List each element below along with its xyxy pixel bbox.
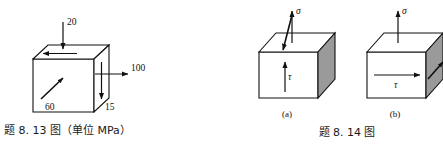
stress-label-60: 60 <box>45 102 55 112</box>
figure-8-13: 20 15 100 60 题 8. 13 图（单位 MPa） <box>4 17 146 137</box>
tau-label-a: τ <box>288 72 292 82</box>
cube-a <box>259 33 335 98</box>
figure-8-14: σ τ (a) σ <box>259 6 443 139</box>
sigma-label-b: σ <box>402 6 407 16</box>
stress-label-15: 15 <box>105 102 115 112</box>
cube-front-face <box>33 59 94 112</box>
panel-a: σ τ (a) <box>259 6 335 119</box>
stress-label-20: 20 <box>67 17 77 27</box>
stress-label-100: 100 <box>131 63 146 73</box>
figure-sheet: 20 15 100 60 题 8. 13 图（单位 MPa） <box>0 0 443 146</box>
sigma-label-a: σ <box>296 6 301 16</box>
figure-8-13-caption: 题 8. 13 图（单位 MPa） <box>4 123 131 137</box>
figure-8-14-caption: 题 8. 14 图 <box>319 126 376 139</box>
panel-b: σ τ (b) <box>367 6 443 119</box>
tau-label-b: τ <box>394 80 398 90</box>
figures-canvas: 20 15 100 60 题 8. 13 图（单位 MPa） <box>0 0 443 146</box>
panel-b-label: (b) <box>390 109 401 119</box>
panel-a-label: (a) <box>282 109 292 119</box>
cube-b <box>367 33 443 98</box>
stress-arrow-20: 20 <box>63 17 77 49</box>
